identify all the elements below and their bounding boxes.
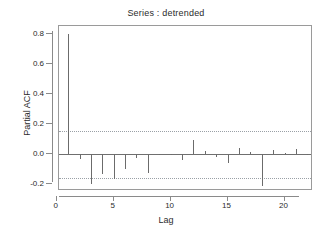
pacf-bar: [205, 151, 206, 155]
x-tick-label: 5: [110, 201, 114, 210]
x-tick-label: 0: [53, 201, 57, 210]
pacf-bar: [68, 34, 69, 155]
pacf-bar: [273, 150, 274, 155]
zero-line: [59, 154, 311, 155]
pacf-bar: [125, 154, 126, 168]
pacf-bar: [307, 154, 308, 155]
pacf-bar: [262, 154, 263, 186]
y-tick: [46, 93, 52, 94]
chart-title: Series : detrended: [0, 8, 332, 18]
confidence-line-lower: [59, 178, 311, 179]
y-tick: [46, 153, 52, 154]
y-tick: [46, 183, 52, 184]
y-tick: [46, 33, 52, 34]
x-tick-label: 20: [279, 201, 288, 210]
pacf-bar: [148, 154, 149, 173]
y-tick: [46, 63, 52, 64]
pacf-bar: [250, 152, 251, 154]
pacf-bar: [171, 154, 172, 155]
y-tick-label: -0.2: [0, 179, 44, 188]
y-axis-title: Partial ACF: [22, 58, 32, 168]
x-tick-label: 10: [165, 201, 174, 210]
pacf-bar: [285, 153, 286, 155]
pacf-bar: [136, 154, 137, 157]
plot-inner: [59, 26, 311, 189]
pacf-bar: [80, 154, 81, 159]
pacf-bar: [296, 149, 297, 154]
pacf-bar: [239, 148, 240, 154]
pacf-bar: [193, 140, 194, 154]
pacf-bar: [114, 154, 115, 179]
pacf-bar: [102, 154, 103, 174]
pacf-bar: [216, 154, 217, 157]
x-axis-line: [59, 196, 299, 197]
pacf-bar: [228, 154, 229, 163]
confidence-line-upper: [59, 131, 311, 132]
pacf-bar: [159, 154, 160, 155]
pacf-bar: [182, 154, 183, 160]
x-tick-label: 15: [222, 201, 231, 210]
plot-area: [58, 25, 312, 190]
y-axis-line: [52, 31, 53, 182]
y-tick-label: 0.8: [0, 29, 44, 38]
x-axis-title: Lag: [0, 215, 332, 225]
pacf-bar: [91, 154, 92, 183]
pacf-chart: Series : detrended 0.80.60.40.20.0-0.2 0…: [0, 0, 332, 237]
y-tick: [46, 123, 52, 124]
